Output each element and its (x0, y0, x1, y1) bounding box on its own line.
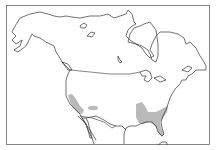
range-area-interior-patch (88, 106, 98, 110)
island-newfoundland (182, 66, 192, 72)
island-hudson (118, 56, 122, 63)
coastline-pacific (12, 28, 94, 144)
great-lakes (140, 70, 166, 82)
border-us-canada (70, 70, 140, 74)
range-map (0, 0, 216, 150)
island-arctic-1 (80, 23, 87, 28)
map-frame (7, 6, 210, 145)
island-arctic-2 (87, 32, 95, 37)
